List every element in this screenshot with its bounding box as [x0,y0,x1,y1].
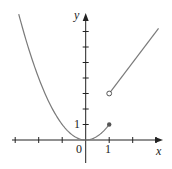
x-tick-label-1: 1 [105,143,111,155]
open-endpoint-circle [107,91,112,96]
piecewise-graph: y x 0 1 1 [0,0,172,169]
parabola-curve [19,14,109,140]
linear-segment [111,28,159,91]
y-tick-label-1: 1 [74,118,80,130]
y-axis-arrow-icon [83,13,89,21]
closed-endpoint-dot [107,122,111,126]
x-axis-label: x [156,145,161,157]
y-axis-label: y [74,9,79,21]
plot-canvas [0,0,172,169]
origin-label: 0 [76,143,82,155]
